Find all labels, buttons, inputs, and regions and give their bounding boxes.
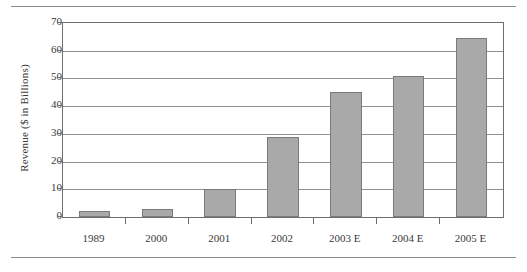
x-tick-label: 2000 — [125, 231, 188, 245]
gridline — [63, 106, 503, 107]
bar — [267, 137, 298, 217]
x-tick-label: 2003 E — [313, 231, 376, 245]
bar — [456, 38, 487, 217]
x-tick-label: 2005 E — [439, 231, 502, 245]
gridline — [63, 134, 503, 135]
x-tick-mark — [188, 218, 189, 224]
plot-area — [62, 22, 504, 218]
x-tick-mark — [251, 218, 252, 224]
revenue-bar-chart-figure: Revenue ($ in Billions) 010203040506070 … — [0, 0, 527, 272]
x-tick-label: 2002 — [251, 231, 314, 245]
x-tick-mark — [313, 218, 314, 224]
x-tick-label: 2001 — [188, 231, 251, 245]
x-tick-label: 2004 E — [376, 231, 439, 245]
bar — [393, 76, 424, 217]
bar — [79, 211, 110, 217]
figure-top-rule — [11, 6, 516, 7]
bar — [142, 209, 173, 217]
x-tick-mark — [439, 218, 440, 224]
x-tick-label: 1989 — [62, 231, 125, 245]
figure-bottom-rule — [11, 257, 516, 258]
x-tick-mark — [376, 218, 377, 224]
x-axis-labels: 19892000200120022003 E2004 E2005 E — [62, 231, 504, 247]
bar — [330, 92, 361, 217]
gridline — [63, 51, 503, 52]
bar — [204, 189, 235, 217]
x-tick-mark — [125, 218, 126, 224]
y-axis-ticks: 010203040506070 — [26, 22, 62, 218]
gridline — [63, 78, 503, 79]
x-axis-ticks — [62, 218, 504, 224]
